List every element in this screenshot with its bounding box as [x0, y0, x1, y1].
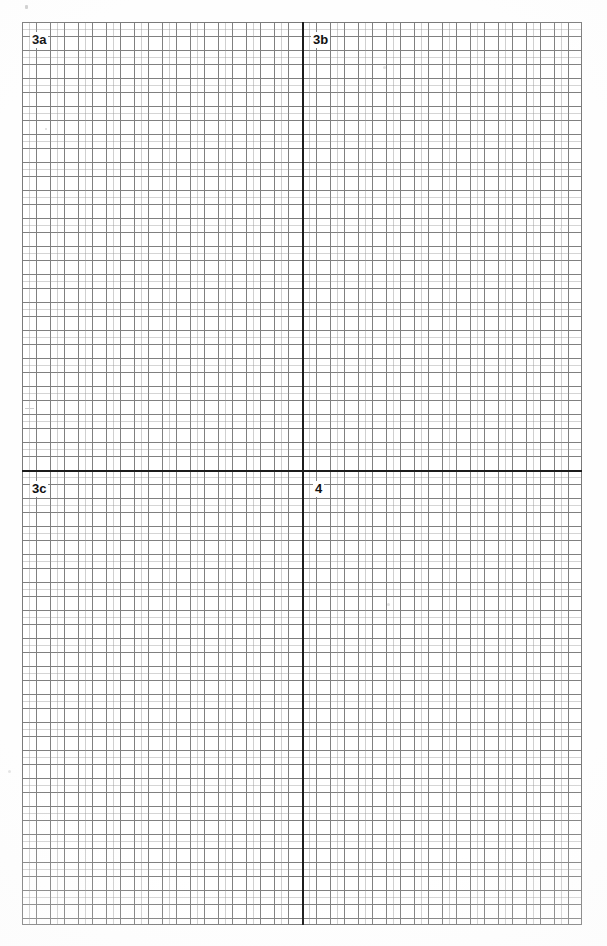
scan-speck [25, 5, 28, 9]
quadrant-label-3a: 3a [30, 32, 48, 48]
scanned-page: 3a 3b 3c 4 [0, 0, 607, 946]
quadrant-label-3c: 3c [30, 481, 48, 497]
quadrant-label-4: 4 [313, 481, 324, 497]
scan-speck [8, 770, 11, 773]
quadrant-label-3b: 3b [311, 32, 330, 48]
horizontal-axis [22, 470, 582, 472]
vertical-axis [302, 22, 304, 925]
